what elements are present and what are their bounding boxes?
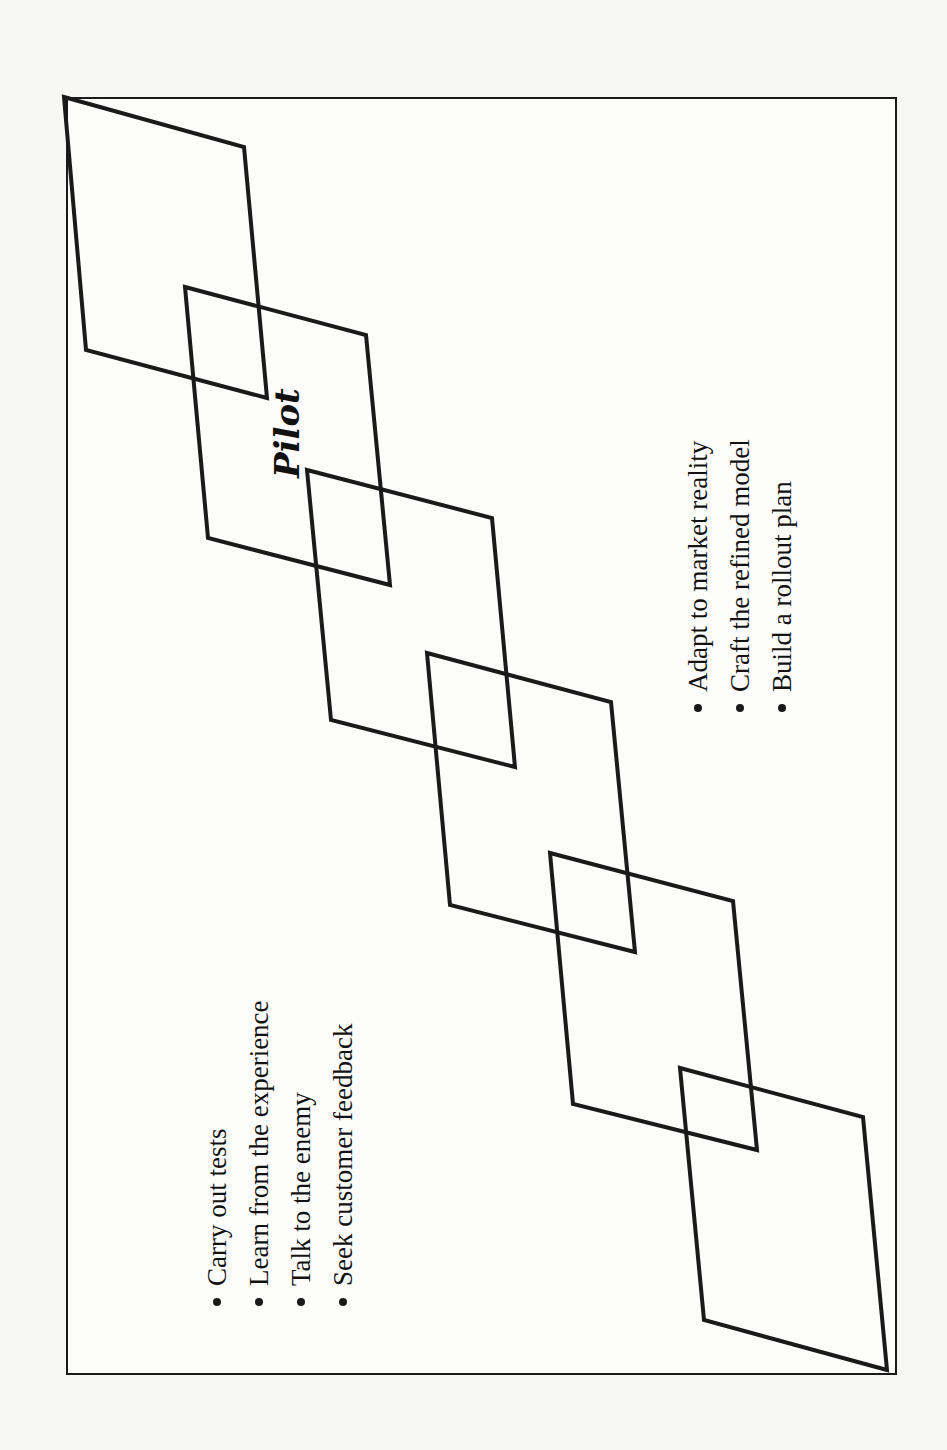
bullet-icon	[255, 1298, 263, 1306]
bullet-icon	[213, 1298, 221, 1306]
parallelogram-3	[307, 470, 515, 767]
list-item-text: Learn from the experience	[244, 1000, 274, 1286]
list-item: Talk to the enemy	[280, 1000, 322, 1306]
list-item: Carry out tests	[196, 1000, 238, 1306]
list-item: Craft the refined model	[719, 439, 761, 712]
bullet-icon	[778, 704, 786, 712]
list-item: Seek customer feedback	[322, 1000, 364, 1306]
parallelogram-6	[680, 1068, 887, 1370]
list-item-text: Build a rollout plan	[767, 481, 797, 692]
bullet-icon	[297, 1298, 305, 1306]
diagram-canvas: Pilot Carry out tests Learn from the exp…	[0, 0, 947, 1450]
list-item: Build a rollout plan	[761, 439, 803, 712]
right-bullet-list: Adapt to market reality Craft the refine…	[677, 439, 803, 712]
parallelogram-1	[64, 97, 267, 398]
list-item-text: Carry out tests	[202, 1129, 232, 1286]
pilot-label: Pilot	[270, 388, 304, 478]
parallelogram-chain	[0, 0, 947, 1450]
parallelogram-5	[550, 853, 757, 1150]
list-item-text: Adapt to market reality	[683, 441, 713, 692]
bullet-icon	[694, 704, 702, 712]
list-item-text: Seek customer feedback	[328, 1024, 358, 1286]
bullet-icon	[339, 1298, 347, 1306]
list-item: Adapt to market reality	[677, 439, 719, 712]
bullet-icon	[736, 704, 744, 712]
list-item-text: Craft the refined model	[725, 439, 755, 692]
parallelogram-4	[427, 653, 635, 952]
list-item: Learn from the experience	[238, 1000, 280, 1306]
left-bullet-list: Carry out tests Learn from the experienc…	[196, 1000, 364, 1306]
list-item-text: Talk to the enemy	[286, 1092, 316, 1286]
